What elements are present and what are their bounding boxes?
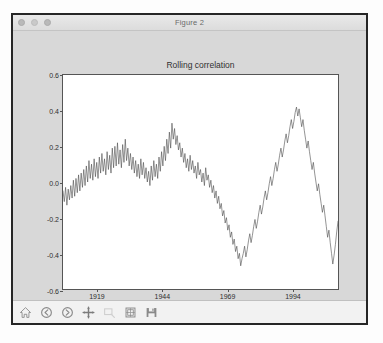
x-tickmark [162, 289, 163, 292]
save-button[interactable] [142, 303, 161, 321]
series-line-rolling-correlation [63, 107, 338, 266]
y-tickmark [60, 147, 63, 148]
x-tick-label: 1994 [285, 293, 301, 300]
rolling-correlation-line-chart [63, 75, 338, 289]
floppy-save-icon [145, 306, 158, 319]
y-tick-label: 0.2 [49, 144, 59, 151]
plot-axes[interactable]: 0.60.40.20.0-0.2-0.4-0.61919194419691994 [62, 74, 339, 290]
y-tick-label: -0.4 [47, 252, 59, 259]
window-title: Figure 2 [13, 15, 366, 30]
zoom-rect-icon [103, 306, 116, 319]
navigation-toolbar [13, 300, 366, 323]
y-tickmark [60, 183, 63, 184]
window-titlebar[interactable]: Figure 2 [13, 15, 366, 31]
forward-arrow-icon [61, 306, 74, 319]
minimize-button[interactable] [31, 19, 38, 26]
x-tick-label: 1969 [220, 293, 236, 300]
y-tickmark [60, 255, 63, 256]
close-button[interactable] [18, 19, 25, 26]
y-tickmark [60, 219, 63, 220]
y-tick-label: 0.0 [49, 180, 59, 187]
y-tickmark [60, 75, 63, 76]
configure-subplots-button[interactable] [121, 303, 140, 321]
pan-move-icon [82, 306, 95, 319]
subplots-icon [124, 306, 137, 319]
screen: Figure 2 Rolling correlation 0.60.40.20.… [0, 0, 383, 343]
forward-button[interactable] [58, 303, 77, 321]
figure-window: Figure 2 Rolling correlation 0.60.40.20.… [11, 13, 368, 325]
x-tick-label: 1944 [155, 293, 171, 300]
zoom-rect-button[interactable] [100, 303, 119, 321]
x-tickmark [97, 289, 98, 292]
y-tickmark [60, 291, 63, 292]
home-icon [19, 306, 32, 319]
back-button[interactable] [37, 303, 56, 321]
pan-button[interactable] [79, 303, 98, 321]
chart-title: Rolling correlation [62, 60, 339, 70]
y-tick-label: -0.2 [47, 216, 59, 223]
x-tick-label: 1919 [89, 293, 105, 300]
figure-canvas[interactable]: Rolling correlation 0.60.40.20.0-0.2-0.4… [13, 31, 366, 300]
y-tickmark [60, 111, 63, 112]
back-arrow-icon [40, 306, 53, 319]
window-controls [18, 19, 51, 26]
home-button[interactable] [16, 303, 35, 321]
y-tick-label: 0.6 [49, 72, 59, 79]
x-tickmark [293, 289, 294, 292]
y-tick-label: -0.6 [47, 288, 59, 295]
x-tickmark [228, 289, 229, 292]
zoom-button[interactable] [44, 19, 51, 26]
y-tick-label: 0.4 [49, 108, 59, 115]
